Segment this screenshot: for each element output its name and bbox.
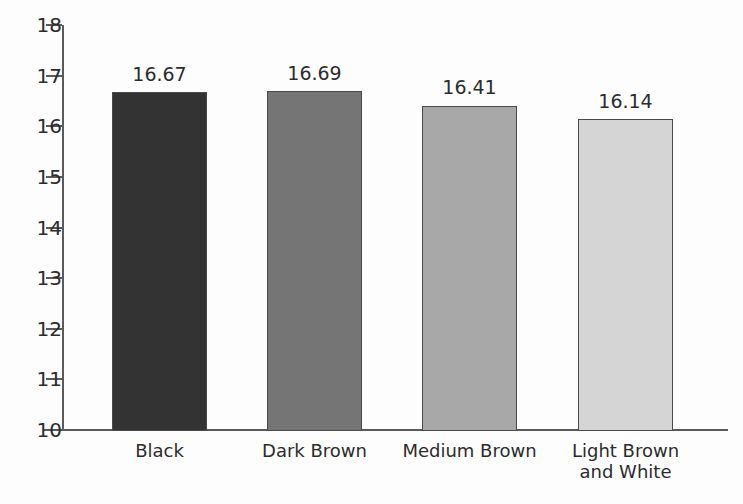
bar: [267, 91, 362, 431]
y-axis-tick-label: 14: [22, 218, 62, 238]
y-axis-tick-label: 15: [22, 167, 62, 187]
x-axis-category-label: Light Brown and White: [553, 440, 698, 482]
x-axis-category-label: Black: [87, 440, 232, 461]
y-axis-tick-label: 13: [22, 268, 62, 288]
y-axis-tick-label: 16: [22, 116, 62, 136]
bar: [422, 106, 517, 432]
bar: [112, 92, 207, 431]
y-axis-tick-label: 12: [22, 319, 62, 339]
x-axis-category-label: Dark Brown: [242, 440, 387, 461]
bar-chart: 101112131415161718 16.6716.6916.4116.14 …: [0, 0, 743, 504]
y-axis-tick-label: 17: [22, 66, 62, 86]
bar: [578, 119, 673, 431]
y-axis-tick-label: 18: [22, 15, 62, 35]
x-axis-category-label: Medium Brown: [397, 440, 542, 461]
y-axis-tick-label: 10: [22, 420, 62, 440]
plot-area: 101112131415161718 16.6716.6916.4116.14 …: [0, 0, 743, 504]
bar-value-label: 16.14: [578, 92, 673, 111]
y-axis-tick-label: 11: [22, 369, 62, 389]
bar-value-label: 16.41: [422, 78, 517, 97]
bar-value-label: 16.67: [112, 65, 207, 84]
y-axis-line: [62, 25, 64, 431]
bar-value-label: 16.69: [267, 64, 362, 83]
